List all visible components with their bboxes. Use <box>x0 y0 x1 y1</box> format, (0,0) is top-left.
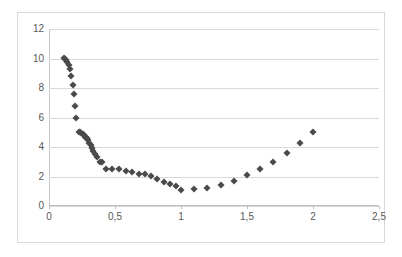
y-tick-label: 12 <box>33 24 44 34</box>
data-point <box>73 115 80 122</box>
x-tick-mark <box>379 206 380 209</box>
data-point <box>257 166 264 173</box>
x-tick-label: 2 <box>310 212 316 222</box>
chart-plot-wrapper: 024681012 00,511,522,5 <box>18 13 386 244</box>
data-point <box>217 181 224 188</box>
x-tick-label: 1 <box>178 212 184 222</box>
gridline-y <box>49 147 379 148</box>
data-point <box>270 158 277 165</box>
chart-frame: 024681012 00,511,522,5 <box>17 12 385 243</box>
data-point <box>68 73 75 80</box>
data-point <box>177 187 184 194</box>
x-tick-label: 1,5 <box>240 212 254 222</box>
y-tick-label: 2 <box>38 172 44 182</box>
gridline-y <box>49 59 379 60</box>
data-point <box>296 140 303 147</box>
x-axis-tick-labels: 00,511,522,5 <box>49 212 379 226</box>
x-tick-label: 2,5 <box>372 212 386 222</box>
data-point <box>283 150 290 157</box>
x-tick-label: 0 <box>46 212 52 222</box>
plot-area <box>49 29 379 206</box>
x-tick-mark <box>313 206 314 209</box>
y-tick-label: 0 <box>38 201 44 211</box>
data-point <box>71 90 78 97</box>
y-tick-label: 4 <box>38 142 44 152</box>
x-tick-mark <box>49 206 50 209</box>
data-point <box>230 177 237 184</box>
y-tick-label: 8 <box>38 83 44 93</box>
gridline-y <box>49 118 379 119</box>
data-point <box>204 184 211 191</box>
gridline-y <box>49 29 379 30</box>
data-point <box>191 186 198 193</box>
x-tick-mark <box>115 206 116 209</box>
data-point <box>243 172 250 179</box>
data-point <box>67 65 74 72</box>
gridline-y <box>49 88 379 89</box>
x-axis-tick-marks <box>49 206 379 210</box>
x-tick-mark <box>181 206 182 209</box>
data-point <box>115 166 122 173</box>
x-tick-label: 0,5 <box>108 212 122 222</box>
x-tick-mark <box>247 206 248 209</box>
y-tick-label: 10 <box>33 54 44 64</box>
data-point <box>309 128 316 135</box>
data-point <box>129 169 136 176</box>
gridline-y <box>49 177 379 178</box>
y-axis-tick-labels: 024681012 <box>18 29 44 206</box>
data-point <box>72 102 79 109</box>
y-tick-label: 6 <box>38 113 44 123</box>
